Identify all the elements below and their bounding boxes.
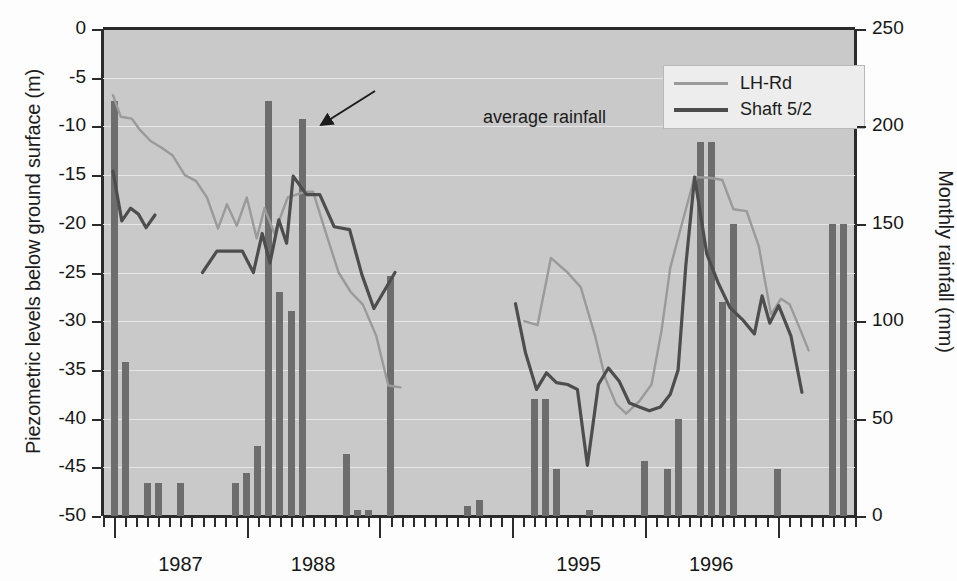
x-tick-minor — [722, 516, 724, 527]
x-tick-minor — [567, 516, 569, 527]
x-tick-minor — [402, 516, 404, 527]
x-axis-year-label: 1988 — [268, 553, 358, 576]
x-tick-major — [512, 516, 514, 538]
right-tick-mark — [857, 516, 866, 518]
right-tick-mark — [857, 126, 866, 128]
left-tick-label: 0 — [75, 17, 86, 39]
left-tick-mark — [92, 29, 101, 31]
x-axis-year-label: 1995 — [534, 553, 624, 576]
x-tick-minor — [446, 516, 448, 527]
x-tick-minor — [490, 516, 492, 527]
left-tick-label: -10 — [59, 114, 86, 136]
x-tick-minor — [822, 516, 824, 527]
x-tick-minor — [391, 516, 393, 527]
left-tick-mark — [92, 321, 101, 323]
x-tick-minor — [335, 516, 337, 527]
x-tick-minor — [579, 516, 581, 527]
right-tick-mark — [857, 321, 866, 323]
x-tick-minor — [612, 516, 614, 527]
right-tick-label: 50 — [872, 407, 893, 429]
x-tick-minor — [789, 516, 791, 527]
left-tick-mark — [92, 370, 101, 372]
x-tick-minor — [689, 516, 691, 527]
x-tick-minor — [501, 516, 503, 527]
x-tick-minor — [634, 516, 636, 527]
legend: LH-Rd Shaft 5/2 — [663, 65, 865, 129]
x-tick-minor — [811, 516, 813, 527]
x-tick-minor — [545, 516, 547, 527]
left-tick-mark — [92, 78, 101, 80]
x-tick-minor — [556, 516, 558, 527]
x-tick-minor — [767, 516, 769, 527]
x-tick-minor — [623, 516, 625, 527]
x-tick-minor — [733, 516, 735, 527]
x-tick-minor — [413, 516, 415, 527]
x-tick-minor — [534, 516, 536, 527]
left-tick-mark — [92, 224, 101, 226]
x-tick-minor — [800, 516, 802, 527]
x-tick-minor — [844, 516, 846, 527]
x-tick-minor — [833, 516, 835, 527]
x-tick-minor — [103, 516, 105, 527]
x-tick-minor — [435, 516, 437, 527]
right-tick-label: 250 — [872, 17, 904, 39]
left-tick-mark — [92, 175, 101, 177]
x-tick-minor — [424, 516, 426, 527]
x-tick-minor — [280, 516, 282, 527]
x-tick-major — [645, 516, 647, 538]
x-tick-minor — [457, 516, 459, 527]
x-tick-minor — [368, 516, 370, 527]
annotation-label: average rainfall — [483, 107, 606, 128]
left-tick-label: -50 — [59, 504, 86, 526]
x-tick-major — [247, 516, 249, 538]
x-tick-minor — [479, 516, 481, 527]
x-tick-minor — [711, 516, 713, 527]
x-tick-minor — [180, 516, 182, 527]
x-tick-minor — [236, 516, 238, 527]
right-tick-mark — [857, 29, 866, 31]
left-tick-mark — [92, 516, 101, 518]
x-tick-minor — [324, 516, 326, 527]
x-tick-minor — [601, 516, 603, 527]
plot-area: 1987198819951996 LH-Rd Shaft 5/2 average… — [103, 29, 855, 516]
x-tick-minor — [269, 516, 271, 527]
x-tick-major — [778, 516, 780, 538]
x-tick-minor — [678, 516, 680, 527]
right-tick-label: 0 — [872, 504, 883, 526]
x-tick-minor — [523, 516, 525, 527]
x-tick-minor — [468, 516, 470, 527]
x-tick-minor — [700, 516, 702, 527]
left-tick-mark — [92, 467, 101, 469]
legend-swatch-lh-rd — [674, 82, 728, 85]
legend-label-shaft: Shaft 5/2 — [740, 99, 812, 120]
left-tick-label: -20 — [59, 212, 86, 234]
left-tick-label: -40 — [59, 407, 86, 429]
left-axis-title: Piezometric levels below ground surface … — [22, 17, 45, 507]
x-tick-minor — [158, 516, 160, 527]
left-tick-mark — [92, 419, 101, 421]
left-tick-label: -15 — [59, 163, 86, 185]
right-axis-title: Monthly rainfall (mm) — [934, 17, 957, 507]
x-tick-minor — [667, 516, 669, 527]
x-tick-minor — [755, 516, 757, 527]
left-tick-mark — [92, 126, 101, 128]
right-tick-mark — [857, 419, 866, 421]
x-tick-minor — [214, 516, 216, 527]
x-tick-minor — [191, 516, 193, 527]
right-tick-label: 150 — [872, 212, 904, 234]
left-tick-label: -35 — [59, 358, 86, 380]
x-axis-year-label: 1996 — [666, 553, 756, 576]
right-tick-mark — [857, 224, 866, 226]
left-tick-mark — [92, 273, 101, 275]
x-tick-minor — [203, 516, 205, 527]
x-tick-minor — [225, 516, 227, 527]
x-tick-minor — [313, 516, 315, 527]
x-tick-minor — [346, 516, 348, 527]
x-tick-minor — [136, 516, 138, 527]
x-tick-minor — [147, 516, 149, 527]
x-tick-minor — [169, 516, 171, 527]
chart-figure: Piezometric levels below ground surface … — [0, 0, 957, 581]
arrow-line — [321, 91, 375, 125]
left-tick-label: -25 — [59, 261, 86, 283]
left-tick-label: -30 — [59, 309, 86, 331]
